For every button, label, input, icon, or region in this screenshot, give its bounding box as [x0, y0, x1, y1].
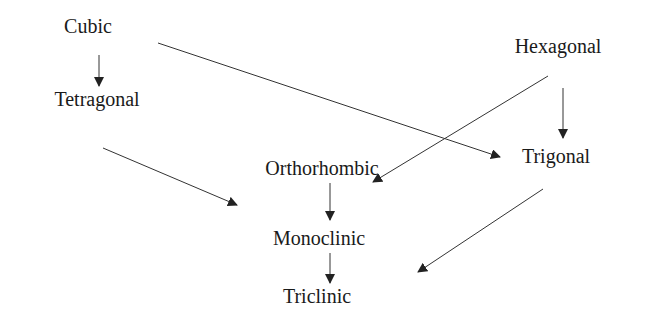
crystal-system-diagram: Cubic Tetragonal Hexagonal Trigonal Orth…: [0, 0, 645, 327]
arrow-cubic-to-trigonal: [158, 43, 500, 157]
node-cubic: Cubic: [64, 16, 112, 36]
node-tetragonal: Tetragonal: [54, 89, 139, 109]
node-trigonal: Trigonal: [522, 146, 590, 166]
node-hexagonal: Hexagonal: [515, 36, 602, 56]
node-monoclinic: Monoclinic: [273, 228, 365, 248]
arrow-tetragonal-to-orthorhombic: [103, 148, 237, 205]
node-triclinic: Triclinic: [283, 286, 351, 306]
node-orthorhombic: Orthorhombic: [265, 158, 378, 178]
arrow-trigonal-to-monoclinic: [418, 189, 543, 272]
